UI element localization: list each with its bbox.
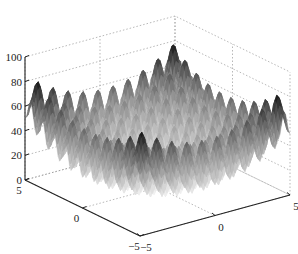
y-tick-label: 0 — [74, 212, 80, 224]
x-tick-label: 0 — [218, 221, 224, 233]
x-tick-label: 5 — [293, 200, 298, 212]
z-tick-label: 80 — [11, 76, 23, 88]
z-tick-label: 60 — [11, 100, 23, 112]
y-tick-label: −5 — [128, 240, 140, 252]
surface-plot: 020406080100−505−505 — [0, 0, 298, 254]
z-tick-label: 20 — [11, 149, 23, 161]
z-tick-label: 40 — [11, 125, 23, 137]
z-tick-label: 100 — [6, 51, 23, 63]
y-tick-label: 5 — [16, 184, 22, 196]
surface-mesh — [25, 45, 290, 197]
x-tick-label: −5 — [140, 241, 152, 253]
